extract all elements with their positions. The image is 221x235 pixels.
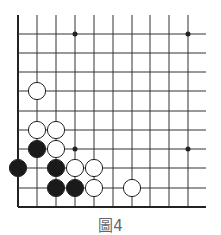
star-point-icon: [73, 32, 78, 37]
white-stone: [47, 121, 64, 138]
black-stone: [47, 159, 64, 176]
white-stone: [28, 82, 45, 99]
go-board: [0, 0, 221, 212]
star-point-icon: [73, 147, 78, 152]
black-stone: [66, 179, 83, 196]
black-stone: [9, 159, 26, 176]
black-stone: [47, 179, 64, 196]
white-stone: [85, 179, 102, 196]
grid-lines: [18, 15, 206, 207]
white-stone: [66, 159, 83, 176]
star-point-icon: [186, 32, 191, 37]
figure-caption: 圖4: [0, 214, 221, 235]
white-stone: [47, 140, 64, 157]
white-stone: [123, 179, 140, 196]
black-stone: [28, 140, 45, 157]
white-stone: [85, 159, 102, 176]
star-point-icon: [186, 147, 191, 152]
white-stone: [28, 121, 45, 138]
